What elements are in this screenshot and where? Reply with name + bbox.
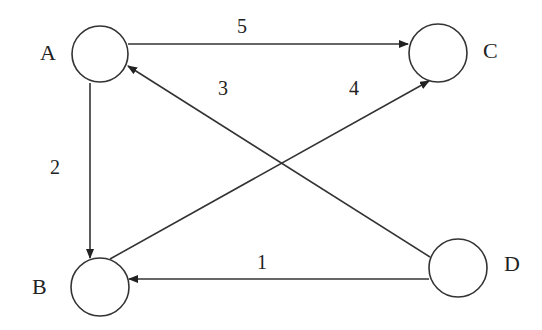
node-label-a: A <box>40 40 56 65</box>
edge-weight-label: 3 <box>218 77 228 99</box>
nodes <box>71 24 487 316</box>
edges <box>90 44 430 279</box>
edge-weight-label: 5 <box>237 15 247 37</box>
node-label-d: D <box>504 251 520 276</box>
node-label-b: B <box>32 274 47 299</box>
node-c <box>409 24 467 82</box>
edge-weight-label: 1 <box>257 251 267 273</box>
graph-canvas: 53421ACBD <box>0 0 542 330</box>
node-d <box>429 239 487 297</box>
edge-b-to-c <box>110 81 429 259</box>
graph-diagram: 53421ACBD <box>0 0 542 330</box>
node-label-c: C <box>483 38 498 63</box>
node-a <box>72 26 128 82</box>
edge-weight-label: 4 <box>349 77 359 99</box>
node-b <box>71 258 129 316</box>
edge-weight-label: 2 <box>50 156 60 178</box>
edge-d-to-a <box>128 66 430 257</box>
